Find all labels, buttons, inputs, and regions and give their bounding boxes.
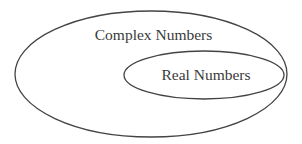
complex-numbers-label: Complex Numbers — [95, 26, 213, 43]
venn-diagram: Complex Numbers Real Numbers — [0, 0, 302, 144]
real-numbers-label: Real Numbers — [161, 66, 250, 83]
